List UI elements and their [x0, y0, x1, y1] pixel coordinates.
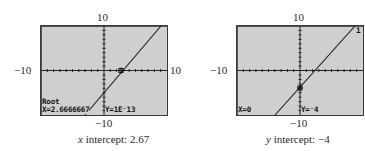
- root-graph-panel: 10 −10 10 −10: [0, 0, 182, 151]
- graph-plot: [41, 26, 167, 115]
- xmax-label: 10: [170, 65, 181, 76]
- graph-plot: [237, 26, 363, 115]
- x-intercept-caption: x intercept: 2.67: [78, 133, 149, 145]
- xmin-label: −10: [210, 65, 227, 76]
- y-readout: Y=1E⁻13: [105, 106, 135, 114]
- x-readout: X=2.6666667: [42, 106, 89, 114]
- x-readout: X=0: [238, 106, 251, 114]
- ymin-label: −10: [290, 118, 307, 129]
- calculator-screen: Root X=2.6666667 Y=1E⁻13: [40, 25, 168, 116]
- graph-number: 1: [356, 27, 360, 35]
- xmin-label: −10: [14, 65, 31, 76]
- ymin-label: −10: [95, 118, 112, 129]
- calculator-screen: 1 X=0 Y=⁻4: [236, 25, 364, 116]
- y-intercept-graph-panel: 10 −10 −10: [183, 0, 365, 151]
- caption-text: intercept: 2.67: [83, 133, 149, 145]
- ymax-label: 10: [293, 12, 304, 23]
- y-readout: Y=⁻4: [301, 106, 318, 114]
- y-intercept-caption: y intercept: −4: [266, 133, 330, 145]
- caption-text: intercept: −4: [271, 133, 330, 145]
- ymax-label: 10: [97, 12, 108, 23]
